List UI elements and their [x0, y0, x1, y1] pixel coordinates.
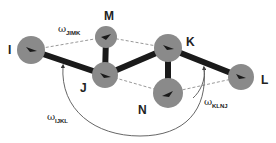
omega-symbol: ω	[47, 111, 55, 122]
torsion-diagram: I M J K N L ω JIMK ω IJKL ω KLNJ	[0, 0, 276, 143]
label-n: N	[138, 103, 147, 117]
label-j: J	[80, 81, 87, 95]
omega-subscript: KLNJ	[212, 103, 228, 109]
bonds	[31, 37, 241, 93]
label-k: K	[186, 35, 195, 49]
omega-symbol: ω	[204, 96, 212, 107]
label-i: I	[8, 43, 11, 57]
label-l: L	[261, 73, 268, 87]
label-m: M	[104, 9, 114, 23]
angle-label-ijkl: ω IJKL	[47, 111, 68, 124]
angle-label-jimk: ω JIMK	[58, 23, 81, 36]
omega-symbol: ω	[58, 23, 66, 34]
angle-arc-ijkl	[63, 66, 205, 136]
angle-label-klnj: ω KLNJ	[204, 96, 228, 109]
omega-subscript: JIMK	[66, 30, 81, 36]
atom-n	[153, 78, 183, 108]
omega-subscript: IJKL	[55, 118, 68, 124]
